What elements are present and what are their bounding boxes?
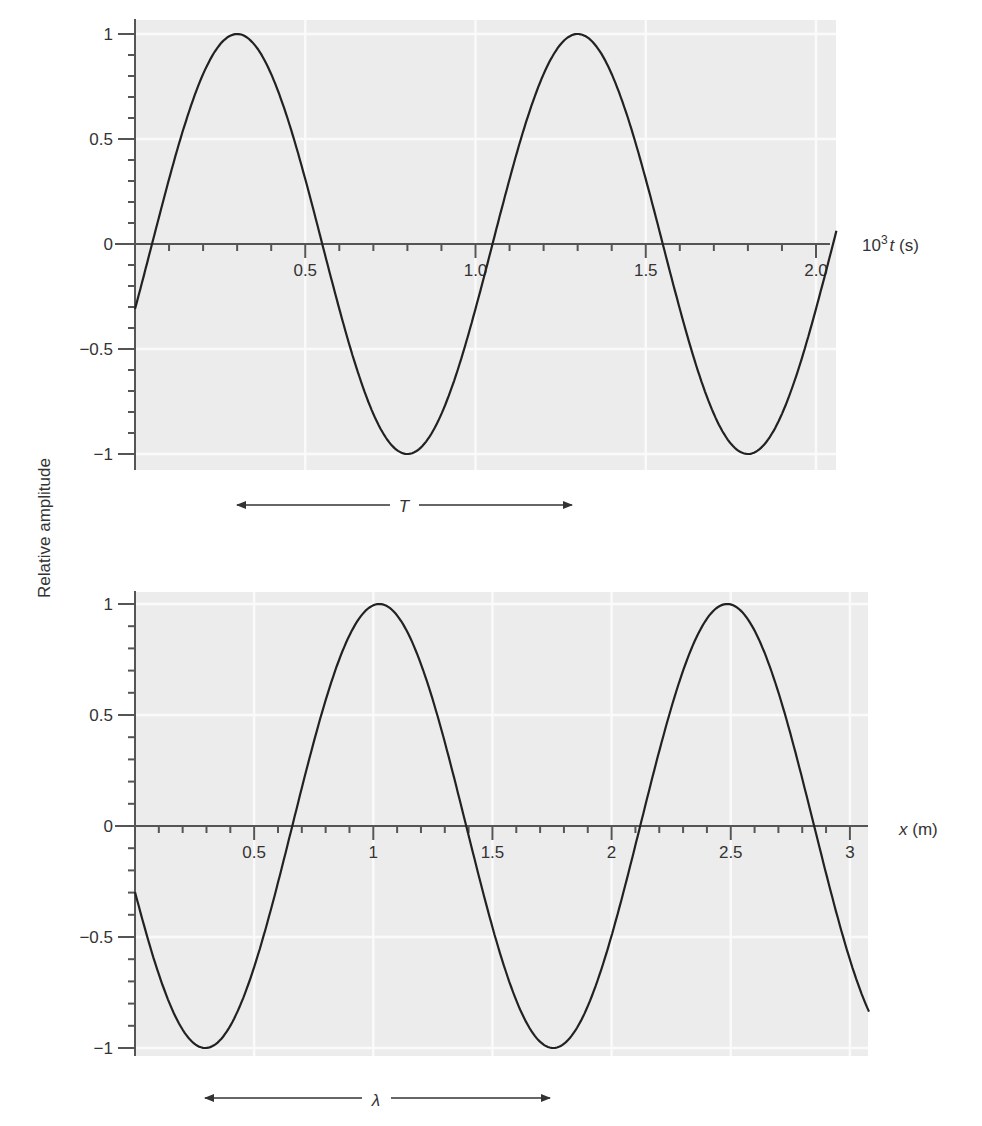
time-domain-plot: 10.50−0.5−10.51.01.52.0 103t (s) T <box>79 19 918 516</box>
wavelength-label: λ <box>371 1091 380 1110</box>
y-tick-label: −0.5 <box>79 340 113 359</box>
y-tick-label: −1 <box>94 1039 113 1058</box>
y-tick-label: 0.5 <box>89 130 113 149</box>
y-tick-label: 0 <box>104 235 113 254</box>
y-tick-label: −1 <box>94 445 113 464</box>
x-tick-label: 3 <box>845 843 854 862</box>
x-tick-label: 2 <box>607 843 616 862</box>
x-tick-label: 0.5 <box>242 843 266 862</box>
x-axis-title: x (m) <box>898 820 938 839</box>
plot-background <box>135 592 868 1056</box>
space-domain-plot: 10.50−0.5−10.511.522.53 x (m) λ <box>79 591 937 1110</box>
x-tick-label: 1.5 <box>481 843 505 862</box>
y-tick-label: 1 <box>104 595 113 614</box>
y-tick-label: −0.5 <box>79 928 113 947</box>
wavelength-annotation: λ <box>205 1091 550 1110</box>
y-tick-label: 1 <box>104 25 113 44</box>
y-tick-label: 0.5 <box>89 706 113 725</box>
x-tick-label: 0.5 <box>293 261 317 280</box>
y-tick-label: 0 <box>104 817 113 836</box>
period-annotation: T <box>237 497 572 516</box>
x-tick-label: 2.5 <box>719 843 743 862</box>
period-label: T <box>399 497 411 516</box>
x-tick-label: 1.5 <box>634 261 658 280</box>
x-axis-title: 103t (s) <box>862 233 919 255</box>
x-tick-label: 1 <box>369 843 378 862</box>
figure: Relative amplitude 10.50−0.5−10.51.01.52… <box>0 0 982 1126</box>
y-axis-title: Relative amplitude <box>35 458 54 598</box>
